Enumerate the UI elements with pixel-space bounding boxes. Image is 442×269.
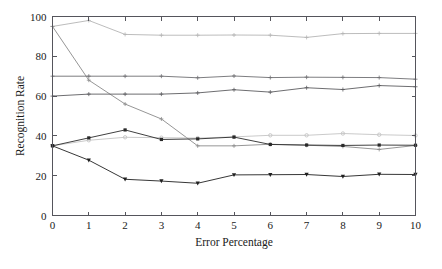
series-layer <box>50 18 417 185</box>
x-tick-label: 8 <box>340 219 346 231</box>
line-chart: 012345678910020406080100Error Percentage… <box>0 0 442 269</box>
data-point-marker <box>123 74 127 78</box>
data-point-marker <box>87 136 90 139</box>
data-point-marker <box>268 76 272 80</box>
data-point-marker <box>123 92 127 96</box>
data-point-marker <box>232 144 236 148</box>
data-point-marker <box>377 31 381 35</box>
x-tick-label: 3 <box>159 219 165 231</box>
data-point-marker <box>341 75 345 79</box>
data-point-marker <box>305 86 309 90</box>
data-point-marker <box>305 75 309 79</box>
data-point-marker <box>160 138 163 141</box>
data-point-marker <box>341 144 344 147</box>
data-point-marker <box>232 135 235 138</box>
series-series-3-upper-flat <box>51 74 418 81</box>
y-tick-label: 60 <box>36 90 48 102</box>
data-point-marker <box>378 143 381 146</box>
axis-labels: 012345678910020406080100Error Percentage… <box>14 11 422 249</box>
x-tick-label: 2 <box>122 219 128 231</box>
x-tick-label: 4 <box>195 219 201 231</box>
data-point-marker <box>232 33 236 37</box>
data-point-marker <box>377 147 381 151</box>
x-tick-label: 7 <box>304 219 310 231</box>
x-tick-label: 9 <box>376 219 382 231</box>
series-series-7-bottom-decline <box>50 144 417 185</box>
y-tick-label: 80 <box>36 50 48 62</box>
x-tick-label: 1 <box>86 219 92 231</box>
y-tick-label: 0 <box>41 210 47 222</box>
x-axis-title: Error Percentage <box>195 236 273 249</box>
data-point-marker <box>123 32 127 36</box>
series-series-1-top <box>51 18 418 39</box>
data-point-marker <box>159 92 163 96</box>
data-point-marker <box>196 91 200 95</box>
y-axis-title: Recognition Rate <box>14 76 27 156</box>
plot-frame <box>53 17 416 216</box>
y-tick-label: 20 <box>36 170 48 182</box>
data-point-marker <box>87 158 91 162</box>
y-tick-label: 100 <box>30 11 47 23</box>
data-point-marker <box>377 84 381 88</box>
data-point-marker <box>159 33 163 37</box>
data-point-marker <box>232 74 236 78</box>
data-point-marker <box>196 33 200 37</box>
data-point-marker <box>196 76 200 80</box>
data-point-marker <box>87 92 91 96</box>
data-point-marker <box>305 35 309 39</box>
series-line <box>53 146 416 183</box>
data-point-marker <box>269 143 272 146</box>
x-tick-label: 6 <box>268 219 274 231</box>
data-point-marker <box>305 143 308 146</box>
axis-frame <box>53 17 416 216</box>
data-point-marker <box>377 76 381 80</box>
data-point-marker <box>268 33 272 37</box>
data-point-marker <box>341 88 345 92</box>
data-point-marker <box>341 32 345 36</box>
data-point-marker <box>268 90 272 94</box>
data-point-marker <box>196 137 199 140</box>
data-point-marker <box>232 88 236 92</box>
axis-ticks <box>53 17 416 216</box>
y-tick-label: 40 <box>36 130 48 142</box>
x-tick-label: 5 <box>231 219 237 231</box>
chart-figure: 012345678910020406080100Error Percentage… <box>0 0 442 269</box>
data-point-marker <box>124 128 127 131</box>
data-point-marker <box>159 74 163 78</box>
x-tick-label: 0 <box>50 219 56 231</box>
x-tick-label: 10 <box>410 219 422 231</box>
